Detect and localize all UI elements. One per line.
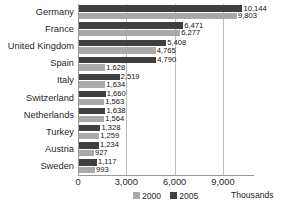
bar-value-label: 993: [96, 166, 109, 174]
bar-2000: [79, 133, 99, 139]
bar-row: Spain4,7901,628: [0, 55, 303, 72]
bar-row: France6,4716,277: [0, 21, 303, 38]
x-tick-label: 6,000: [163, 177, 186, 188]
bar-2005: [79, 5, 242, 11]
bar-value-label: 1,634: [106, 81, 125, 89]
x-axis-units-label: Thousands: [231, 190, 274, 200]
x-tick-label: 0: [75, 177, 80, 188]
bar-chart: Germany10,1449,803France6,4716,277United…: [0, 0, 303, 209]
legend-swatch-icon: [133, 192, 140, 199]
bar-row: Sweden1,117993: [0, 158, 303, 175]
legend-label: 2005: [179, 191, 198, 201]
bar-row: Germany10,1449,803: [0, 4, 303, 21]
bar-row: Austria1,234927: [0, 141, 303, 158]
category-label: Switzerland: [0, 92, 74, 105]
bar-2005: [79, 159, 97, 165]
bar-value-label: 4,765: [157, 47, 176, 55]
bar-2005: [79, 108, 105, 114]
category-label: Spain: [0, 57, 74, 70]
category-label: France: [0, 23, 74, 36]
category-label: Italy: [0, 74, 74, 87]
bar-2000: [79, 13, 237, 19]
bar-2000: [79, 99, 104, 105]
bar-row: Italy2,5191,634: [0, 72, 303, 89]
x-tick-label: 3,000: [115, 177, 138, 188]
bar-2000: [79, 30, 180, 36]
bar-value-label: 927: [95, 149, 108, 157]
bar-2000: [79, 64, 105, 70]
bar-value-label: 1,628: [106, 64, 125, 72]
bar-2000: [79, 116, 104, 122]
bar-value-label: 1,563: [105, 98, 124, 106]
bar-row: Netherlands1,6381,564: [0, 107, 303, 124]
bar-2005: [79, 91, 106, 97]
bar-row: Turkey1,3281,259: [0, 124, 303, 141]
bar-2000: [79, 150, 94, 156]
category-label: United Kingdom: [0, 40, 74, 53]
bar-row: United Kingdom5,4084,765: [0, 38, 303, 55]
bar-value-label: 1,564: [105, 115, 124, 123]
plot-area: Germany10,1449,803France6,4716,277United…: [0, 4, 303, 175]
legend-item[interactable]: 2005: [170, 191, 198, 201]
bar-2005: [79, 125, 100, 131]
bar-value-label: 4,790: [157, 56, 176, 64]
bar-row: Switzerland1,6601,563: [0, 90, 303, 107]
category-label: Turkey: [0, 126, 74, 139]
bar-value-label: 1,259: [100, 132, 119, 140]
x-axis: 03,0006,0009,000: [0, 177, 303, 191]
bar-2005: [79, 40, 166, 46]
category-label: Germany: [0, 6, 74, 19]
legend-item[interactable]: 2000: [133, 191, 161, 201]
x-tick-label: 9,000: [211, 177, 234, 188]
bar-value-label: 6,277: [181, 29, 200, 37]
category-label: Austria: [0, 143, 74, 156]
legend-swatch-icon: [170, 192, 177, 199]
category-label: Sweden: [0, 160, 74, 173]
legend: 20002005: [133, 190, 198, 201]
category-label: Netherlands: [0, 109, 74, 122]
bar-2005: [79, 22, 183, 28]
bar-2000: [79, 167, 95, 173]
bar-2000: [79, 81, 105, 87]
legend-label: 2000: [142, 191, 161, 201]
bar-2000: [79, 47, 156, 53]
bar-value-label: 9,803: [238, 12, 257, 20]
value-axis-line: [78, 175, 254, 176]
